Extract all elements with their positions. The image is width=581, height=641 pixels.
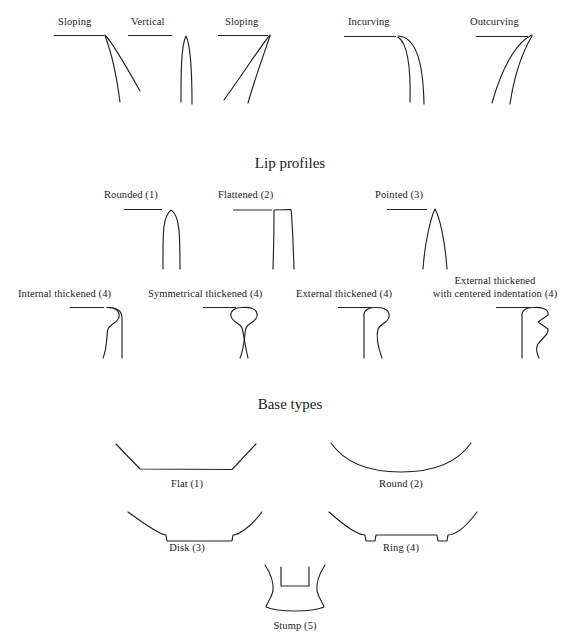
sloping-right-inner-edge — [248, 36, 270, 103]
round-base-outline — [331, 443, 471, 472]
rim-orientation-label-outcurving: Outcurving — [470, 16, 519, 29]
base-type-shape-round — [325, 440, 480, 475]
stump-base-inner-outline — [281, 567, 309, 586]
base-type-label-flat: Flat (1) — [171, 478, 203, 491]
flattened-lip-outline — [273, 210, 294, 270]
lip-profile-label-internal-thickened: Internal thickened (4) — [18, 288, 111, 301]
lip-profile-shape-rounded — [100, 203, 210, 271]
base-type-label-ring: Ring (4) — [383, 542, 419, 555]
base-type-label-stump: Stump (5) — [273, 620, 316, 633]
base-type-shape-stump — [255, 562, 335, 617]
rim-orientation-shape-sloping-right — [196, 30, 296, 110]
outcurving-inner-edge — [510, 36, 532, 104]
lip-profile-label-rounded: Rounded (1) — [104, 189, 158, 202]
rim-orientation-shape-incurving — [340, 30, 450, 110]
lip-profile-shape-external-thickened — [330, 302, 420, 362]
incurving-outer-edge — [398, 36, 424, 104]
rim-orientation-shape-vertical — [126, 30, 206, 110]
rim-orientation-label-incurving: Incurving — [348, 16, 390, 29]
flat-base-outline — [116, 444, 256, 470]
lip-profile-shape-external-thickened-indented — [488, 302, 578, 362]
lip-profile-shape-pointed — [365, 203, 475, 271]
lip-profile-label-external-thickened-indented: External thickened with centered indenta… — [420, 275, 570, 300]
rim-orientation-shape-outcurving — [458, 30, 578, 110]
lip-profile-shape-internal-thickened — [58, 302, 148, 362]
internal-thickened-inner-edge — [103, 307, 119, 358]
label-line-1: External thickened — [455, 275, 536, 286]
base-type-label-round: Round (2) — [379, 478, 423, 491]
external-indented-inner-edge — [522, 307, 534, 358]
rim-orientation-label-sloping-left: Sloping — [58, 16, 91, 29]
lip-profile-shape-flattened — [215, 203, 325, 271]
rim-orientation-label-vertical: Vertical — [131, 16, 164, 29]
base-type-shape-ring — [325, 508, 480, 543]
lip-profile-label-pointed: Pointed (3) — [375, 189, 423, 202]
external-indented-outer-edge — [534, 307, 548, 358]
section-title-lip-profiles: Lip profiles — [255, 155, 325, 172]
lip-profile-label-external-thickened: External thickened (4) — [296, 288, 392, 301]
incurving-inner-edge — [398, 37, 410, 102]
label-line-2: with centered indentation (4) — [433, 288, 557, 299]
sloping-right-outer-edge — [224, 35, 270, 100]
base-type-shape-flat — [110, 440, 265, 475]
external-thickened-outer-edge — [376, 307, 389, 358]
rounded-lip-outline — [163, 210, 180, 269]
disk-base-outline — [128, 512, 262, 541]
lip-profile-shape-symmetrical-thickened — [195, 302, 285, 362]
base-type-shape-disk — [110, 508, 265, 543]
external-thickened-inner-edge — [364, 307, 376, 358]
rim-orientation-label-sloping-right: Sloping — [225, 16, 258, 29]
vertical-rim-outline — [181, 36, 192, 104]
pottery-typology-figure: Sloping Vertical Sloping Incurving Outcu… — [0, 0, 581, 641]
internal-thickened-outer-edge — [107, 307, 122, 358]
base-type-label-disk: Disk (3) — [169, 542, 205, 555]
lip-profile-label-symmetrical-thickened: Symmetrical thickened (4) — [148, 288, 262, 301]
section-title-base-types: Base types — [258, 396, 323, 413]
pointed-lip-outline — [423, 209, 447, 269]
stump-base-outer-outline — [265, 565, 325, 611]
lip-profile-label-flattened: Flattened (2) — [218, 189, 273, 202]
ring-base-outline — [329, 512, 477, 541]
